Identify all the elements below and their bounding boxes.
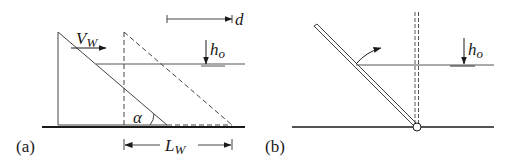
panel-b-label: (b)	[265, 137, 285, 156]
rotation-arrow	[356, 48, 381, 64]
flap-paddle-cap	[314, 24, 317, 26]
panel-a: VW d ho α LW (a)	[16, 10, 245, 157]
length-label: LW	[164, 136, 186, 157]
flap-paddle-inner	[317, 24, 417, 124]
angle-arc	[150, 114, 154, 125]
depth-label-b: ho	[468, 40, 484, 61]
wavemaker-diagram: VW d ho α LW (a)	[0, 0, 510, 165]
angle-label: α	[133, 108, 143, 127]
depth-label: ho	[210, 40, 226, 61]
velocity-label: VW	[76, 29, 98, 50]
displacement-label: d	[235, 10, 244, 29]
hinge-icon	[413, 123, 421, 131]
wedge-hypotenuse	[58, 32, 167, 125]
flap-paddle-outer	[314, 26, 414, 126]
panel-b: ho (b)	[265, 12, 494, 156]
panel-a-label: (a)	[16, 137, 35, 156]
